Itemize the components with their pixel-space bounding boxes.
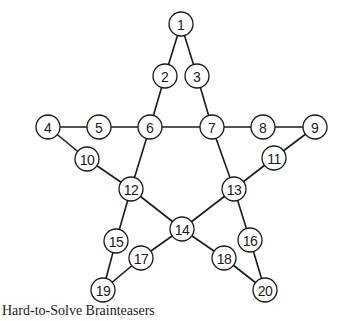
node-8: 8 xyxy=(251,115,275,139)
node-label: 12 xyxy=(124,182,139,198)
book-title-caption: Hard-to-Solve Brainteasers xyxy=(2,303,155,319)
node-label: 18 xyxy=(217,251,232,267)
nodes-layer: 1234567891011121314151617181920 xyxy=(36,12,327,302)
node-19: 19 xyxy=(91,278,115,302)
node-20: 20 xyxy=(253,278,277,302)
node-13: 13 xyxy=(222,177,246,201)
node-label: 7 xyxy=(208,120,216,136)
node-6: 6 xyxy=(138,115,162,139)
node-11: 11 xyxy=(262,146,286,170)
node-label: 13 xyxy=(227,182,242,198)
node-label: 14 xyxy=(175,222,190,238)
node-7: 7 xyxy=(200,115,224,139)
node-17: 17 xyxy=(129,246,153,270)
node-label: 11 xyxy=(267,151,281,167)
node-10: 10 xyxy=(75,147,99,171)
node-4: 4 xyxy=(36,115,60,139)
node-9: 9 xyxy=(303,115,327,139)
node-label: 20 xyxy=(258,283,273,299)
node-label: 17 xyxy=(134,251,149,267)
node-label: 4 xyxy=(44,120,52,136)
node-label: 3 xyxy=(193,69,201,85)
node-1: 1 xyxy=(169,12,193,36)
node-label: 8 xyxy=(259,120,267,136)
node-label: 16 xyxy=(243,233,258,249)
node-label: 15 xyxy=(109,234,124,250)
node-label: 9 xyxy=(311,120,319,136)
node-12: 12 xyxy=(119,177,143,201)
node-2: 2 xyxy=(153,64,177,88)
node-label: 6 xyxy=(146,120,154,136)
node-3: 3 xyxy=(185,64,209,88)
node-label: 10 xyxy=(80,152,95,168)
node-label: 2 xyxy=(161,69,169,85)
node-label: 19 xyxy=(96,283,111,299)
node-label: 1 xyxy=(177,17,185,33)
node-5: 5 xyxy=(87,115,111,139)
node-15: 15 xyxy=(104,229,128,253)
node-16: 16 xyxy=(238,228,262,252)
node-label: 5 xyxy=(95,120,103,136)
node-14: 14 xyxy=(170,217,194,241)
star-diagram: 1234567891011121314151617181920 xyxy=(0,0,344,321)
node-18: 18 xyxy=(212,246,236,270)
